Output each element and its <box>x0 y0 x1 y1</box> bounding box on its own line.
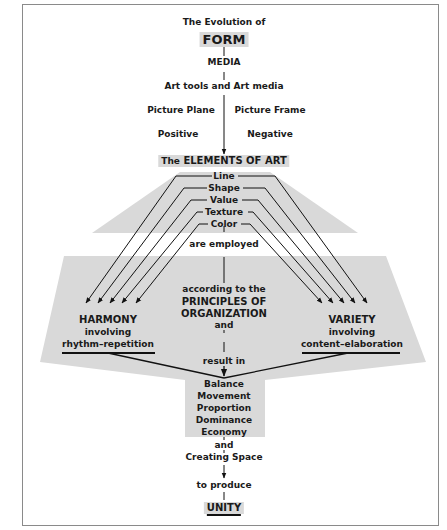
result-in-label: result in <box>203 356 245 367</box>
harmony-detail: rhythm–repetition <box>62 339 154 350</box>
media-label: MEDIA <box>208 57 241 68</box>
harmony-involving: involving <box>85 327 131 338</box>
principles-line1: PRINCIPLES OF <box>182 296 267 308</box>
elements-main: ELEMENTS OF ART <box>183 155 286 166</box>
negative-label: Negative <box>247 129 293 140</box>
positive-label: Positive <box>158 129 199 140</box>
harmony-title: HARMONY <box>79 314 137 326</box>
element-line: Line <box>213 171 234 182</box>
unity-label: UNITY <box>204 502 244 514</box>
principle-movement: Movement <box>197 391 250 402</box>
picture-plane-label: Picture Plane <box>147 105 215 116</box>
unity-text: UNITY <box>207 502 241 516</box>
element-value: Value <box>210 195 238 206</box>
principle-balance: Balance <box>204 379 244 390</box>
according-to-label: according to the <box>182 284 265 295</box>
principle-economy: Economy <box>201 427 247 438</box>
principle-proportion: Proportion <box>197 403 251 414</box>
are-employed-label: are employed <box>189 239 258 250</box>
creating-space-label: Creating Space <box>185 452 262 463</box>
element-shape: Shape <box>208 183 240 194</box>
principles-line2: ORGANIZATION <box>181 308 267 320</box>
title-form: FORM <box>200 32 249 47</box>
element-color: Color <box>211 219 238 230</box>
elements-of-art-heading: The ELEMENTS OF ART <box>158 155 289 167</box>
title-prefix: The Evolution of <box>183 17 266 28</box>
picture-frame-label: Picture Frame <box>235 105 306 116</box>
variety-involving: involving <box>329 327 375 338</box>
variety-detail: content–elaboration <box>301 339 403 350</box>
principle-dominance: Dominance <box>196 415 252 426</box>
art-tools-label: Art tools and Art media <box>164 81 283 92</box>
and-label-2: and <box>215 440 234 451</box>
variety-title: VARIETY <box>328 314 375 326</box>
to-produce-label: to produce <box>197 480 252 491</box>
and-label-1: and <box>215 320 234 331</box>
element-texture: Texture <box>205 207 243 218</box>
elements-prefix: The <box>161 156 180 166</box>
